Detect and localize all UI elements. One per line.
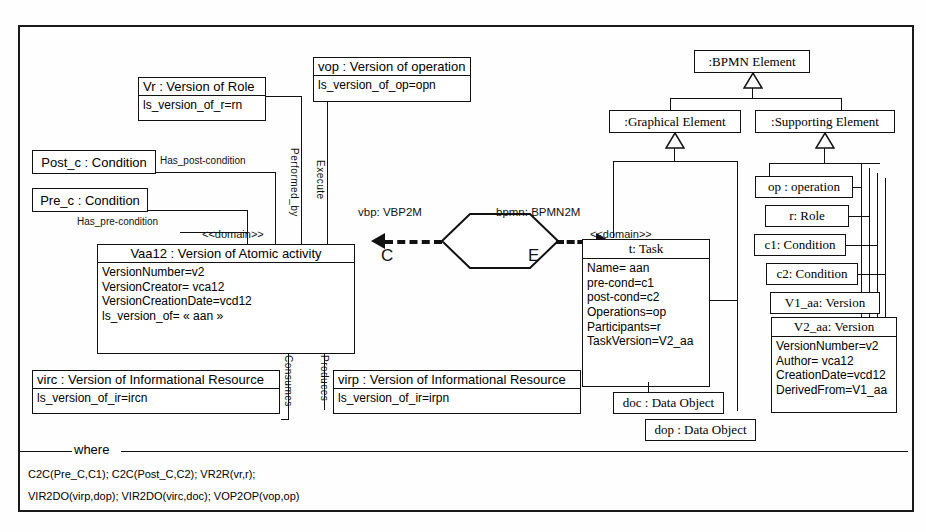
class-box-virc-attributes: ls_version_of_ir=ircn	[33, 389, 279, 408]
generalization-arrow-supporting	[815, 133, 835, 149]
class-box-c1[interactable]: c1: Condition	[754, 234, 846, 256]
class-box-c1-header: c1: Condition	[764, 237, 835, 253]
stereotype-label-vaa12: <<domain>>	[202, 228, 264, 240]
class-box-bpmn-element-header: :BPMN Element	[708, 54, 795, 70]
class-box-pre-c-header: Pre_c : Condition	[40, 193, 140, 208]
class-box-post-c-header: Post_c : Condition	[41, 155, 147, 170]
class-box-c2-header: c2: Condition	[776, 266, 847, 282]
class-box-v2-aa-attributes: VersionNumber=v2 Author= vca12 CreationD…	[772, 337, 896, 400]
generalization-arrow-bpmn	[743, 73, 763, 89]
class-box-vop-attributes: ls_version_of_op=opn	[314, 76, 470, 95]
where-rule-left	[20, 451, 72, 452]
class-box-v1-aa[interactable]: V1_aa: Version	[770, 292, 880, 314]
class-box-virp-attributes: ls_version_of_ir=irpn	[334, 389, 580, 408]
class-box-vop-header: vop : Version of operation	[314, 58, 470, 75]
class-box-task-header: t: Task	[583, 240, 709, 258]
class-box-task[interactable]: t: Task Name= aan pre-cond=c1 post-cond=…	[582, 239, 710, 387]
class-box-supporting-element-header: :Supporting Element	[771, 114, 879, 130]
class-box-vr-attributes: ls_version_of_r=rn	[139, 96, 265, 115]
where-line-1: C2C(Pre_C,C1); C2C(Post_C,C2); VR2R(vr,r…	[28, 468, 255, 480]
class-box-vaa12-attributes: VersionNumber=v2 VersionCreator= vca12 V…	[98, 263, 354, 326]
transformation-hexagon[interactable]	[440, 212, 560, 272]
class-box-doc[interactable]: doc : Data Object	[613, 392, 724, 414]
class-box-supporting-element[interactable]: :Supporting Element	[755, 110, 895, 133]
connector-supporting-h	[769, 163, 880, 164]
connector-supporting-v	[824, 148, 825, 164]
connector-vr-h	[266, 96, 302, 97]
class-box-graphical-element[interactable]: :Graphical Element	[609, 110, 741, 133]
class-box-post-c[interactable]: Post_c : Condition	[32, 150, 156, 174]
where-rule-right	[121, 451, 908, 452]
class-box-vaa12[interactable]: Vaa12 : Version of Atomic activity Versi…	[97, 244, 355, 354]
class-box-vaa12-header: Vaa12 : Version of Atomic activity	[98, 245, 354, 262]
class-box-dop[interactable]: dop : Data Object	[645, 419, 756, 441]
connector-bpmn-left-v	[670, 98, 671, 110]
class-box-doc-header: doc : Data Object	[623, 395, 714, 411]
class-box-dop-header: dop : Data Object	[654, 422, 746, 438]
connector-graphical-left-v	[613, 161, 614, 238]
assoc-label-has-pre-condition: Has_pre-condition	[77, 216, 158, 227]
connector-graphical-h	[613, 161, 738, 162]
connector-postc-v	[275, 172, 276, 246]
class-box-graphical-element-header: :Graphical Element	[624, 114, 725, 130]
class-box-v1-aa-header: V1_aa: Version	[785, 295, 865, 311]
connector-doc-v	[648, 382, 649, 392]
transformation-arrow-left-line	[385, 240, 442, 244]
assoc-label-performed-by: Performed_by	[289, 148, 300, 217]
transformation-left-label: vbp: VBP2M	[358, 206, 422, 218]
transformation-left-marker: C	[381, 246, 393, 266]
class-box-op-header: op : operation	[768, 179, 840, 195]
connector-consumes-h	[281, 419, 289, 420]
class-box-virc-header: virc : Version of Informational Resource	[33, 371, 279, 388]
connector-vop-v	[327, 102, 328, 246]
connector-r-stub	[849, 216, 869, 217]
class-box-virc[interactable]: virc : Version of Informational Resource…	[32, 370, 280, 414]
connector-consumes-v	[288, 354, 289, 420]
connector-produces-v	[324, 354, 325, 410]
connector-c2-stub	[858, 274, 885, 275]
where-label: where	[74, 442, 109, 457]
class-box-vr[interactable]: Vr : Version of Role ls_version_of_r=rn	[138, 77, 266, 121]
class-box-task-attributes: Name= aan pre-cond=c1 post-cond=c2 Opera…	[583, 259, 709, 351]
class-box-v2-aa-header: V2_aa: Version	[772, 318, 896, 336]
class-box-r-header: r: Role	[789, 208, 825, 224]
diagram-canvas: Vr : Version of Role ls_version_of_r=rn …	[0, 0, 926, 532]
class-box-bpmn-element[interactable]: :BPMN Element	[694, 50, 810, 73]
connector-vr-v	[301, 96, 302, 246]
connector-bpmn-right-v	[841, 98, 842, 110]
class-box-pre-c[interactable]: Pre_c : Condition	[32, 188, 148, 212]
connector-task-right-stub	[710, 300, 737, 301]
connector-graphical-v	[674, 148, 675, 162]
transformation-right-label: bpmn: BPMN2M	[496, 206, 580, 218]
class-box-virp-header: virp : Version of Informational Resource	[334, 371, 580, 388]
class-box-c2[interactable]: c2: Condition	[766, 263, 858, 285]
connector-op-stub	[853, 187, 861, 188]
connector-postc-h	[156, 172, 276, 173]
class-box-virp[interactable]: virp : Version of Informational Resource…	[333, 370, 581, 414]
class-box-vop[interactable]: vop : Version of operation ls_version_of…	[313, 57, 471, 102]
generalization-arrow-graphical	[665, 133, 685, 149]
connector-c1-stub	[846, 245, 877, 246]
assoc-label-has-post-condition: Has_post-condition	[160, 155, 246, 166]
assoc-label-execute: Execute	[315, 160, 326, 200]
connector-supporting-left-v	[769, 163, 770, 176]
class-box-r[interactable]: r: Role	[765, 205, 849, 227]
class-box-op[interactable]: op : operation	[755, 176, 853, 198]
transformation-right-marker: E	[528, 246, 539, 266]
connector-bpmn-h	[670, 98, 842, 99]
class-box-v2-aa[interactable]: V2_aa: Version VersionNumber=v2 Author= …	[771, 317, 897, 413]
connector-graphical-right-v	[737, 161, 738, 411]
class-box-vr-header: Vr : Version of Role	[139, 78, 265, 95]
where-line-2: VIR2DO(virp,dop); VIR2DO(virc,doc); VOP2…	[28, 490, 299, 502]
connector-prec-h	[148, 210, 248, 211]
